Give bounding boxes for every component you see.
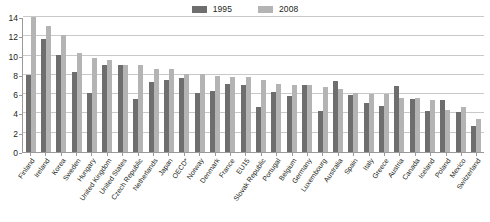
bar-group — [192, 18, 207, 152]
x-axis-category-label: Finland — [17, 157, 36, 180]
bar — [77, 53, 82, 152]
x-axis-label-cell: Korea — [53, 157, 68, 222]
x-axis-labels: FinlandIrelandKoreaSwedenHungaryUnited K… — [22, 157, 484, 222]
x-axis-tick-mark — [307, 153, 308, 156]
bar-series-container — [23, 18, 484, 152]
x-axis-tick-mark — [430, 153, 431, 156]
bar — [307, 85, 312, 152]
bar — [107, 60, 112, 152]
bar — [461, 107, 466, 152]
y-axis-tick-label: 4 — [0, 110, 18, 119]
x-axis-tick-mark — [168, 153, 169, 156]
legend-label-2008: 2008 — [279, 5, 298, 14]
x-axis-label-cell: Slovak Republic — [253, 157, 268, 222]
bar-group — [453, 18, 468, 152]
y-axis-tick-mark — [19, 95, 22, 96]
x-axis-label-cell: Luxembourg — [315, 157, 330, 222]
gridline — [23, 16, 484, 17]
bar — [138, 65, 143, 152]
bar-group — [115, 18, 130, 152]
x-axis-tick-mark — [107, 153, 108, 156]
bar-group — [346, 18, 361, 152]
bar-group — [269, 18, 284, 152]
bar — [31, 17, 36, 152]
bar-group — [330, 18, 345, 152]
y-axis-tick-label: 14 — [0, 14, 18, 23]
x-axis-label-cell: Belgium — [284, 157, 299, 222]
legend-swatch-1995 — [192, 6, 207, 13]
x-axis-tick-mark — [461, 153, 462, 156]
bar-group — [361, 18, 376, 152]
bar-group — [468, 18, 483, 152]
x-axis-label-cell: Iceland — [423, 157, 438, 222]
bar-group — [84, 18, 99, 152]
x-axis-tick-mark — [476, 153, 477, 156]
x-axis-label-cell: Poland — [438, 157, 453, 222]
bar — [154, 69, 159, 152]
bar-group — [69, 18, 84, 152]
x-axis-label-cell: Portugal — [269, 157, 284, 222]
x-axis-label-cell: Denmark — [207, 157, 222, 222]
x-axis-tick-mark — [153, 153, 154, 156]
bar-group — [392, 18, 407, 152]
bar-group — [315, 18, 330, 152]
x-axis-tick-mark — [45, 153, 46, 156]
x-axis-label-cell: France — [222, 157, 237, 222]
x-axis-tick-mark — [230, 153, 231, 156]
x-axis-tick-mark — [338, 153, 339, 156]
x-axis-tick-mark — [446, 153, 447, 156]
bar — [246, 77, 251, 152]
x-axis-tick-mark — [184, 153, 185, 156]
bar — [292, 85, 297, 152]
y-axis-tick-label: 8 — [0, 72, 18, 81]
bar — [323, 87, 328, 152]
y-axis-tick-mark — [19, 76, 22, 77]
bar-group — [407, 18, 422, 152]
chart-legend: 1995 2008 — [0, 2, 490, 16]
bar-group — [146, 18, 161, 152]
bar — [169, 69, 174, 152]
bar — [184, 74, 189, 152]
y-axis-tick-mark — [19, 57, 22, 58]
bar — [92, 58, 97, 153]
bar-chart: 1995 2008 02468101214 FinlandIrelandKore… — [0, 0, 490, 222]
y-axis-tick-label: 0 — [0, 149, 18, 158]
x-axis-tick-mark — [30, 153, 31, 156]
bar — [215, 76, 220, 152]
x-axis-tick-mark — [292, 153, 293, 156]
x-axis-label-cell: OECD* — [176, 157, 191, 222]
y-axis-tick-label: 6 — [0, 91, 18, 100]
legend-entry-2008: 2008 — [258, 5, 298, 14]
x-axis-category-label: Italy — [361, 157, 374, 172]
legend-label-1995: 1995 — [213, 5, 232, 14]
y-axis-tick-mark — [19, 18, 22, 19]
plot-area — [22, 18, 484, 153]
x-axis-label-cell: Austria — [392, 157, 407, 222]
x-axis-label-cell: Italy — [361, 157, 376, 222]
bar — [123, 65, 128, 152]
x-axis-label-cell: Japan — [161, 157, 176, 222]
bar-group — [54, 18, 69, 152]
bar — [230, 77, 235, 152]
legend-entry-1995: 1995 — [192, 5, 232, 14]
x-axis-label-cell: Switzerland — [469, 157, 484, 222]
x-axis-tick-mark — [384, 153, 385, 156]
x-axis-label-cell: Spain — [346, 157, 361, 222]
bar — [415, 98, 420, 152]
bar-group — [284, 18, 299, 152]
bar — [276, 84, 281, 152]
y-axis-tick-label: 12 — [0, 33, 18, 42]
x-axis-tick-mark — [276, 153, 277, 156]
y-axis-tick-mark — [19, 114, 22, 115]
bar-group — [23, 18, 38, 152]
bar — [338, 89, 343, 152]
bar — [353, 93, 358, 152]
x-axis-tick-mark — [399, 153, 400, 156]
legend-swatch-2008 — [258, 6, 273, 13]
x-axis-tick-mark — [199, 153, 200, 156]
x-axis-tick-mark — [261, 153, 262, 156]
bar — [399, 98, 404, 152]
bar-group — [38, 18, 53, 152]
x-axis-label-cell: Sweden — [68, 157, 83, 222]
bar-group — [100, 18, 115, 152]
